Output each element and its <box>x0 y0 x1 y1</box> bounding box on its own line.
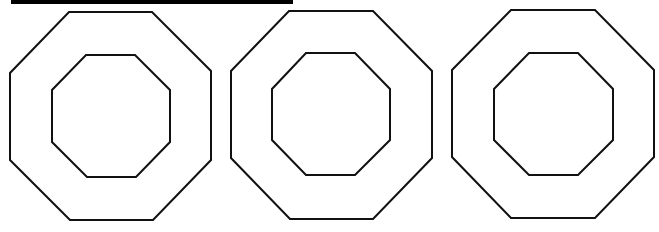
octagon-ring-2 <box>231 11 432 219</box>
outer-octagon-1 <box>10 12 211 220</box>
inner-octagon-1 <box>52 55 170 177</box>
outer-octagon-2 <box>231 11 432 219</box>
octagon-ring-3 <box>452 10 654 218</box>
octagon-ring-1 <box>10 12 211 220</box>
inner-octagon-3 <box>494 53 613 175</box>
outer-octagon-3 <box>452 10 654 218</box>
octagon-diagram <box>0 0 659 232</box>
inner-octagon-2 <box>272 53 390 175</box>
